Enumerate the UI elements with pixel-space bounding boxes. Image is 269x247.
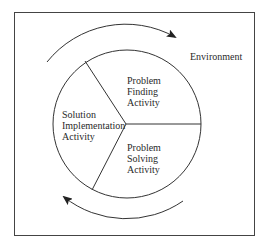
label-line: Problem <box>127 75 161 86</box>
problem-finding-activity-label: Problem Finding Activity <box>127 75 161 108</box>
label-line: Activity <box>62 131 125 142</box>
label-line: Activity <box>127 97 161 108</box>
label-line: Finding <box>127 86 161 97</box>
environment-label-text: Environment <box>190 51 242 62</box>
label-line: Problem <box>127 142 161 153</box>
environment-label: Environment <box>190 51 242 62</box>
label-line: Solving <box>127 153 161 164</box>
activity-cycle-diagram <box>0 0 269 247</box>
label-line: Solution <box>62 109 125 120</box>
solution-implementation-activity-label: Solution Implementation Activity <box>62 109 125 142</box>
label-line: Implementation <box>62 120 125 131</box>
label-line: Activity <box>127 164 161 175</box>
clockwise-arrow-bottom <box>64 197 183 219</box>
problem-solving-activity-label: Problem Solving Activity <box>127 142 161 175</box>
